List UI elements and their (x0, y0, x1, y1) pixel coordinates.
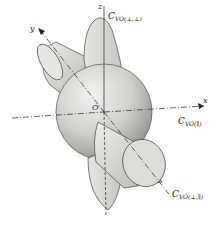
x-axis-label: x (203, 97, 208, 105)
label-perp-perp: CVO(⊥,⊥) (108, 12, 142, 22)
label-subscript: VO(⊥,∥) (179, 193, 203, 200)
label-parallel: CVO(∥) (178, 117, 202, 127)
label-perp-parallel: CVO(⊥,∥) (172, 190, 203, 200)
label-subscript: VO(∥) (185, 120, 202, 127)
label-symbol: C (172, 189, 179, 199)
label-subscript: VO(⊥,⊥) (115, 15, 142, 22)
label-symbol: C (108, 11, 115, 21)
z-axis-label: z (98, 3, 102, 11)
y-arrow-icon (38, 28, 45, 35)
origin-label: O (92, 104, 99, 112)
y-axis-label: y (30, 25, 35, 33)
label-symbol: C (178, 116, 185, 126)
